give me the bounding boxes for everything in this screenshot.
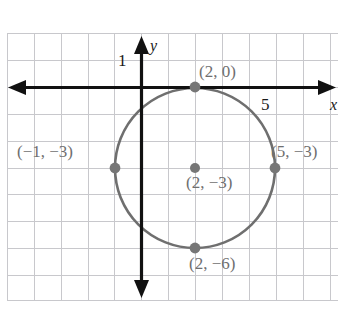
y-axis-arrow-up [134,36,149,54]
x-axis-arrow-left [8,80,26,95]
point-center-2-neg3 [190,163,200,173]
x-axis-arrow-right [318,80,336,95]
y-tick-label-1: 1 [118,52,127,69]
x-axis-label: x [330,97,337,113]
axes [16,44,328,289]
point-label-2-neg6: (2, −6) [189,255,235,272]
y-axis-arrow-down [134,280,149,298]
point-2-neg6 [190,243,201,254]
axis-arrowheads [8,36,336,298]
graph-figure: 1 y 5 x (2, 0) (−1, −3) (5, −3) (2, −3) … [0,0,344,309]
x-tick-label-5: 5 [261,96,270,113]
point-2-0 [190,82,201,93]
point-label-5-neg3: (5, −3) [271,143,317,160]
grid-lines [7,33,338,301]
point-neg1-neg3 [110,163,121,174]
y-axis-label: y [150,38,157,54]
point-label-center-2-neg3: (2, −3) [186,174,232,191]
point-5-neg3 [270,163,281,174]
point-label-2-0: (2, 0) [199,63,236,80]
point-label-neg1-neg3: (−1, −3) [17,143,73,160]
